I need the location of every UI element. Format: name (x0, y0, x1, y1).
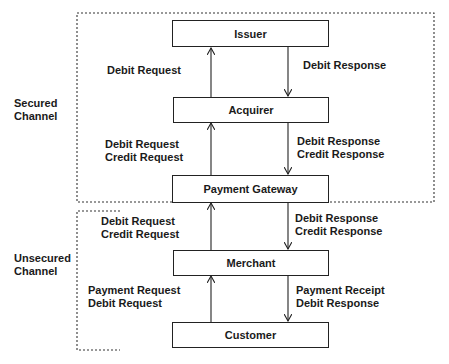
node-issuer: Issuer (172, 20, 329, 47)
node-customer-label: Customer (225, 329, 276, 341)
flow-line: Debit Response (297, 135, 384, 148)
node-issuer-label: Issuer (234, 28, 266, 40)
unsecured-label-line1: Unsecured (14, 252, 71, 265)
flow-line: Credit Request (105, 151, 183, 164)
flow-issuer-to-acquirer: Debit Response (303, 59, 386, 72)
flow-gateway-to-acquirer: Debit Request Credit Request (105, 138, 183, 164)
flow-line: Payment Request (88, 284, 180, 297)
flow-line: Debit Response (296, 297, 385, 310)
node-merchant-label: Merchant (227, 257, 276, 269)
node-gateway-label: Payment Gateway (203, 183, 297, 195)
node-customer: Customer (172, 322, 329, 348)
flow-line: Credit Response (295, 225, 382, 238)
node-acquirer-label: Acquirer (228, 104, 273, 116)
secured-channel-label: Secured Channel (14, 97, 57, 123)
flow-line: Credit Request (101, 228, 179, 241)
node-acquirer: Acquirer (173, 97, 329, 123)
flow-merchant-to-customer: Payment Receipt Debit Response (296, 284, 385, 310)
flow-line: Credit Response (297, 148, 384, 161)
flow-line: Debit Response (295, 212, 382, 225)
flow-line: Debit Request (105, 138, 183, 151)
flow-acquirer-to-gateway: Debit Response Credit Response (297, 135, 384, 161)
unsecured-label-line2: Channel (14, 265, 71, 278)
secured-label-line2: Channel (14, 110, 57, 123)
flow-line: Debit Request (107, 64, 181, 77)
node-payment-gateway: Payment Gateway (172, 175, 329, 203)
flow-acquirer-to-issuer: Debit Request (107, 64, 181, 77)
unsecured-channel-label: Unsecured Channel (14, 252, 71, 278)
flow-customer-to-merchant: Payment Request Debit Request (88, 284, 180, 310)
flow-merchant-to-gateway: Debit Request Credit Request (101, 215, 179, 241)
flow-line: Debit Response (303, 59, 386, 72)
flow-line: Debit Request (101, 215, 179, 228)
flow-line: Payment Receipt (296, 284, 385, 297)
node-merchant: Merchant (173, 250, 329, 276)
flow-line: Debit Request (88, 297, 180, 310)
secured-label-line1: Secured (14, 97, 57, 110)
flow-gateway-to-merchant: Debit Response Credit Response (295, 212, 382, 238)
